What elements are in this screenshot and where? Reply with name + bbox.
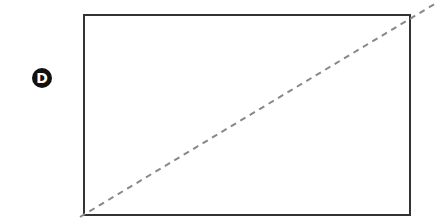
diagram-canvas	[0, 0, 440, 220]
dashed-diagonal-line	[80, 2, 438, 217]
rectangle	[84, 15, 410, 215]
label-badge-d: D	[32, 68, 52, 88]
